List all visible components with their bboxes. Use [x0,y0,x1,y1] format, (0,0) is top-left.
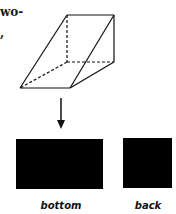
bottom-right-edge [70,62,114,88]
down-arrow-icon [57,98,65,129]
right-slant-edge [70,15,114,88]
bottom-view-face [16,139,103,189]
hidden-left-bottom-edge [20,62,67,88]
bottom-view-label: bottom [35,201,87,211]
back-view-face [123,138,172,188]
back-view-label: back [124,201,172,211]
left-slant-edge [20,15,67,88]
